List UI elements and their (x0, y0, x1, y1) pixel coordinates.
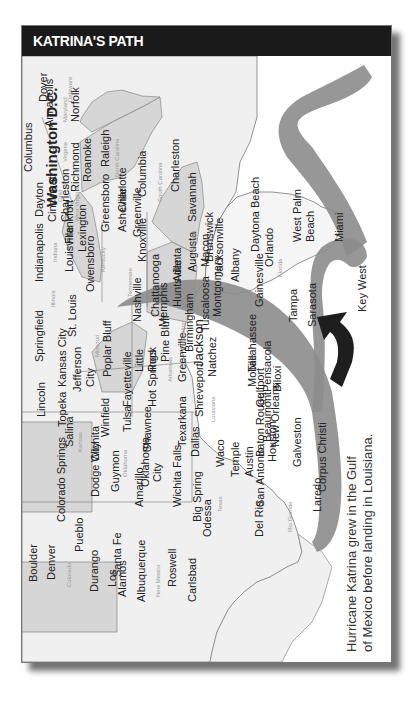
label-waco: Waco (215, 439, 226, 467)
label-hot-springs: Hot Springs (147, 350, 158, 407)
label-raleigh: Raleigh (100, 130, 111, 167)
state-virginia: Virginia (62, 142, 68, 162)
label-poplar-bluff: Poplar Bluff (102, 320, 113, 377)
label-albuquerque: Albuquerque (136, 540, 147, 602)
label-sarasota: Sarasota (307, 283, 318, 327)
caption-line-1: Hurricane Katrina grew in the Gulf (344, 434, 360, 652)
label-los-alamos: Alamos (117, 560, 128, 597)
state-missouri: Missouri (94, 335, 100, 357)
state-illinois: Illinois (50, 290, 56, 307)
label-carlsbad: Carlsbad (187, 558, 198, 602)
label-asheville: Asheville (117, 188, 128, 232)
state-ohio: Ohio (57, 189, 63, 202)
label-miami: Miami (334, 213, 345, 242)
state-south-carolina: South Carolina (157, 162, 163, 202)
label-boulder: Boulder (28, 544, 39, 582)
label-san-antonio: San Antonio (255, 448, 266, 507)
label-jackson: Jackson (192, 319, 205, 367)
caption-line-2: of Mexico before landing in Louisiana. (360, 434, 376, 652)
label-denver: Denver (46, 545, 57, 580)
state-new-mexico: New Mexico (155, 564, 161, 597)
label-columbus: Columbus (23, 122, 34, 172)
label-laredo: Laredo (312, 478, 323, 512)
label-roswell: Roswell (167, 548, 178, 587)
label-nashville: Nashville (132, 277, 143, 322)
state-louisiana: Louisiana (210, 396, 216, 422)
label-kansas-city: Kansas City (57, 328, 68, 387)
label-gainesville: Gainesville (254, 253, 265, 307)
label-savannah: Savannah (187, 172, 198, 222)
label-del-rio: Del Rio (254, 501, 265, 537)
state-texas: Texas (217, 496, 223, 512)
label-springfield: Springfield (34, 310, 45, 362)
label-daytona: Daytona Beach (250, 177, 261, 252)
label-beaumont: Beaumont (262, 392, 273, 442)
label-pueblo: Pueblo (74, 518, 85, 552)
label-odessa: Odessa (202, 499, 213, 537)
label-st-louis: St. Louis (67, 294, 78, 337)
rotated-map-canvas: Dover Annapolis Norfolk Washington D.C. … (22, 56, 391, 662)
label-dodge-city: Dodge City (90, 443, 101, 497)
label-tampa: Tampa (288, 289, 299, 322)
label-greensboro: Greensboro (100, 174, 111, 232)
label-dallas: Dallas (190, 426, 201, 457)
label-temple: Temple (230, 442, 241, 477)
state-georgia: Georgia (190, 231, 196, 252)
state-oklahoma: Oklahoma (122, 450, 128, 477)
state-delaware: Delaware (67, 77, 73, 102)
label-owensboro: Owensboro (85, 236, 96, 292)
label-jefferson-city: City (85, 368, 96, 387)
state-tennessee: Tennessee (127, 268, 133, 297)
label-little: Little (134, 349, 145, 372)
label-indianapolis: Indianapolis (34, 223, 45, 282)
state-mississippi: Mississippi (180, 321, 186, 350)
label-durango: Durango (89, 550, 100, 592)
label-wpb-2: Beach (305, 211, 316, 242)
state-kentucky: Kentucky (100, 247, 106, 272)
map-title: KATRINA'S PATH (33, 33, 143, 49)
label-guymon: Guymon (110, 450, 121, 492)
label-tulsa: Tulsa (122, 406, 133, 433)
state-north-carolina: North Carolina (114, 138, 120, 177)
label-jefferson: Jefferson (72, 347, 83, 392)
label-key-west: Key West (357, 265, 368, 312)
label-knoxville: Knoxville (137, 218, 148, 262)
label-pine-bluff: Pine Bluff (160, 315, 171, 362)
label-lincoln: Lincoln (36, 382, 47, 417)
map-area: Dover Annapolis Norfolk Washington D.C. … (22, 56, 391, 662)
label-winfield: Winfield (100, 398, 111, 437)
state-arkansas: Arkansas (167, 357, 173, 382)
label-albany: Albany (230, 248, 241, 282)
label-orlando: Orlando (264, 228, 275, 267)
label-texarkana: Texarkana (177, 396, 188, 447)
label-huntsville: Huntsville (172, 259, 183, 307)
label-charleston-sc: Charleston (170, 139, 181, 192)
label-amarillo: Amarillo (134, 467, 145, 507)
label-shreveport: Shreveport (194, 363, 205, 417)
label-roanoke: Roanoke (82, 138, 93, 182)
label-dayton: Dayton (34, 182, 45, 217)
state-alabama: Alabama (222, 293, 228, 317)
label-colorado-springs: Colorado Springs (56, 437, 67, 522)
title-bar: KATRINA'S PATH (22, 26, 391, 56)
river-rio-grande: Rio Grande (287, 501, 293, 532)
label-macon: Macon (200, 234, 211, 267)
label-wichita-falls: Wichita Falls (172, 445, 183, 507)
state-indiana: Indiana (52, 242, 58, 262)
label-fayetteville: Fayetteville (122, 351, 133, 407)
label-galveston: Galveston (292, 417, 303, 467)
label-wpb-1: West Palm (292, 189, 303, 242)
label-richmond: Richmond (70, 142, 81, 192)
state-kansas: Kansas (77, 432, 83, 452)
state-colorado: Colorado (66, 563, 72, 587)
state-west-virginia: West Virginia (74, 187, 80, 222)
label-oklahoma-city: City (152, 463, 163, 482)
map-caption: Hurricane Katrina grew in the Gulf of Me… (344, 434, 376, 652)
state-florida: Florida (277, 259, 283, 277)
label-natchez: Natchez (207, 337, 218, 377)
label-louisville: Louisville (64, 227, 75, 272)
map-card: KATRINA'S PATH (21, 25, 392, 663)
